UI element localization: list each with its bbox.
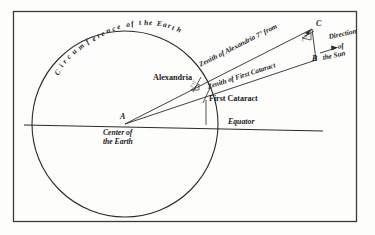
- label-center-of-the-earth-line1: Center of: [103, 129, 132, 137]
- circumference-letter: e: [149, 18, 152, 27]
- label-alexandria: Alexandria: [153, 74, 192, 83]
- label-point-a: A: [120, 113, 125, 121]
- label-center-of-the-earth-line2: the Earth: [103, 138, 133, 146]
- eratosthenes-earth-circumference-diagram: C i r c u m f e r e n c e o f t h e E a …: [0, 0, 375, 235]
- label-point-c: C: [316, 20, 321, 28]
- label-point-b: B: [312, 55, 317, 63]
- ray-a-to-b-zenith-first-cataract: [125, 60, 316, 124]
- label-first-cataract: First Cataract: [209, 95, 258, 103]
- label-equator: Equator: [228, 118, 254, 126]
- circumference-letter: E: [157, 19, 163, 28]
- equator-line: [24, 125, 323, 131]
- circumference-letter: h: [144, 18, 149, 27]
- diagram-drawing-canvas: [0, 0, 375, 235]
